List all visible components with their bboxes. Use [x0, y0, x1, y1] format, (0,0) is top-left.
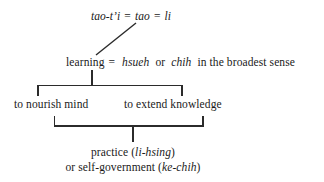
node-learning-chih: chih [171, 56, 191, 68]
node-tao-ti-term3: li [165, 10, 172, 22]
node-selfgov-ke-chih: ke-chih [162, 161, 197, 173]
node-practice: practice (li-hsing) or self-government (… [33, 145, 233, 175]
node-tao-ti-term1: tao-t’i [91, 10, 120, 22]
node-practice-li-hsing: li-hsing [135, 146, 171, 158]
node-practice-suffix: ) [171, 146, 175, 158]
node-tao-ti-equals-1: = [123, 10, 132, 22]
node-practice-line-2: or self-government (ke-chih) [33, 160, 233, 175]
edge-root-to-learning [96, 23, 136, 55]
node-practice-prefix: practice ( [91, 146, 135, 158]
node-learning-tail: in the broadest sense [197, 56, 295, 68]
edge-children-to-practice [55, 116, 204, 126]
node-tao-ti-term2: tao [135, 10, 150, 22]
node-to-extend-knowledge-label: to extend knowledge [124, 98, 222, 110]
node-tao-ti: tao-t’i=tao=li [0, 10, 262, 23]
node-learning: learning=hsuehorchihin the broadest sens… [66, 56, 298, 69]
node-learning-hsueh: hsueh [122, 56, 149, 68]
node-practice-line-1: practice (li-hsing) [33, 145, 233, 160]
node-learning-or: or [155, 56, 165, 68]
edge-learning-to-children [38, 86, 182, 97]
node-tao-ti-equals-2: = [153, 10, 162, 22]
node-learning-word: learning [66, 56, 104, 68]
node-to-extend-knowledge: to extend knowledge [124, 98, 222, 111]
node-to-nourish-mind-label: to nourish mind [14, 98, 88, 110]
diagram-canvas: tao-t’i=tao=li learning=hsuehorchihin th… [0, 0, 324, 182]
node-to-nourish-mind: to nourish mind [14, 98, 88, 111]
node-selfgov-prefix: or self-government ( [65, 161, 162, 173]
node-selfgov-suffix: ) [197, 161, 201, 173]
node-learning-equals: = [107, 56, 116, 68]
